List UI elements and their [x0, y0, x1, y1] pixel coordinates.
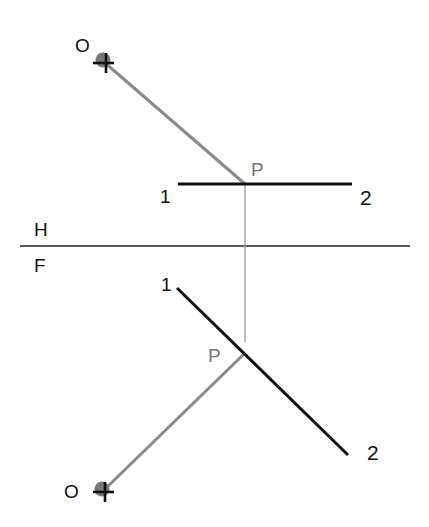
top-line-start-label: 1	[160, 187, 171, 206]
front-observer-label: O	[64, 482, 79, 501]
projection-diagram	[0, 0, 429, 527]
top-sight-line	[104, 62, 245, 184]
fold-label-h: H	[34, 220, 48, 239]
front-line-end-label: 2	[367, 442, 379, 463]
front-line-start-label: 1	[161, 275, 172, 294]
front-line-1-2	[177, 288, 348, 455]
top-line-end-label: 2	[360, 187, 372, 208]
top-observer-label: O	[75, 36, 90, 55]
top-observer-point-icon	[93, 53, 114, 74]
top-point-label: P	[251, 160, 264, 179]
front-sight-line	[104, 353, 245, 490]
front-point-label: P	[208, 346, 221, 365]
fold-label-f: F	[34, 256, 46, 275]
